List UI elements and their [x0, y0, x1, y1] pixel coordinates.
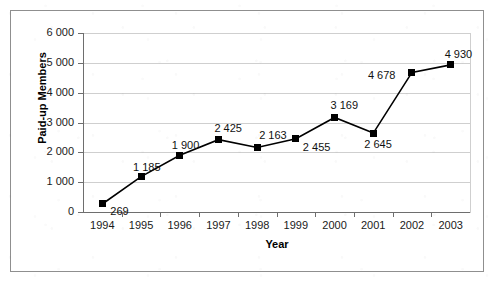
x-axis-tick-label: 2002	[390, 219, 434, 231]
data-point-marker	[99, 200, 106, 207]
x-axis-tick-label: 1996	[158, 219, 202, 231]
chart-figure: 01 0002 0003 0004 0005 0006 000 Paid-up …	[0, 0, 495, 287]
x-axis-tick-label: 1998	[235, 219, 279, 231]
x-axis-tick	[122, 212, 123, 217]
data-point-label: 1 185	[133, 162, 161, 173]
data-point-label: 3 169	[331, 100, 359, 111]
x-axis-tick-label: 1997	[196, 219, 240, 231]
data-point-marker	[447, 61, 454, 68]
data-point-marker	[138, 173, 145, 180]
data-point-label: 4 930	[445, 49, 473, 60]
data-point-marker	[370, 130, 377, 137]
data-point-label: 2 645	[364, 139, 392, 150]
data-point-label: 2 163	[259, 130, 287, 141]
data-point-label: 1 900	[172, 140, 200, 151]
data-point-label: 269	[110, 206, 128, 217]
x-axis-tick-label: 2001	[351, 219, 395, 231]
data-point-label: 2 425	[214, 123, 242, 134]
x-axis-tick-label: 1994	[80, 219, 124, 231]
x-axis-tick-label: 2000	[313, 219, 357, 231]
data-point-marker	[215, 136, 222, 143]
x-axis-tick-label: 1995	[119, 219, 163, 231]
x-axis-tick	[160, 212, 161, 217]
data-point-marker	[408, 69, 415, 76]
x-axis-tick	[354, 212, 355, 217]
data-point-label: 4 678	[368, 70, 396, 81]
data-point-marker	[292, 135, 299, 142]
data-point-marker	[331, 114, 338, 121]
x-axis-tick-label: 1999	[274, 219, 318, 231]
x-axis-tick	[238, 212, 239, 217]
x-axis-tick-label: 2003	[429, 219, 473, 231]
x-axis-tick	[315, 212, 316, 217]
x-axis-tick	[199, 212, 200, 217]
data-point-marker	[176, 152, 183, 159]
data-point-marker	[254, 144, 261, 151]
x-axis-tick	[431, 212, 432, 217]
x-axis-tick	[393, 212, 394, 217]
data-point-label: 2 455	[303, 142, 331, 153]
x-axis-tick	[277, 212, 278, 217]
x-axis-title: Year	[83, 238, 471, 250]
